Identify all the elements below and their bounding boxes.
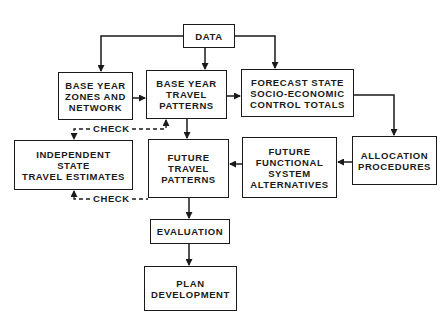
- node-label: SOCIO-ECONOMIC: [250, 88, 344, 99]
- node-label: NETWORK: [69, 102, 122, 113]
- node-future-travel: FUTURE TRAVEL PATTERNS: [148, 139, 229, 198]
- node-label: ALLOCATION: [361, 150, 429, 161]
- node-independent-state: INDEPENDENT STATE TRAVEL ESTIMATES: [14, 140, 133, 190]
- node-label: ALTERNATIVES: [250, 179, 329, 190]
- node-label: SYSTEM: [268, 168, 311, 179]
- node-label: FORECAST STATE: [251, 77, 344, 88]
- node-label: PATTERNS: [161, 174, 216, 185]
- node-label: PATTERNS: [159, 100, 214, 111]
- node-label: CONTROL TOTALS: [250, 99, 345, 110]
- node-label: INDEPENDENT: [36, 149, 111, 160]
- node-label: BASE YEAR: [65, 80, 126, 91]
- node-evaluation: EVALUATION: [150, 219, 230, 244]
- node-base-year-zones: BASE YEAR ZONES AND NETWORK: [58, 72, 133, 120]
- node-label: FUTURE: [167, 152, 209, 163]
- node-label: PLAN: [176, 278, 204, 289]
- node-label: FUTURE: [268, 146, 310, 157]
- node-label: PROCEDURES: [358, 161, 431, 172]
- node-label: EVALUATION: [157, 226, 223, 237]
- node-label: FUNCTIONAL: [256, 157, 324, 168]
- node-plan-development: PLAN DEVELOPMENT: [144, 266, 237, 311]
- node-label: STATE: [57, 160, 90, 171]
- node-label: BASE YEAR: [156, 78, 217, 89]
- node-label: TRAVEL ESTIMATES: [22, 171, 125, 182]
- node-label: DEVELOPMENT: [151, 289, 230, 300]
- node-base-year-travel: BASE YEAR TRAVEL PATTERNS: [146, 70, 227, 119]
- node-label: TRAVEL: [168, 163, 209, 174]
- node-allocation: ALLOCATION PROCEDURES: [352, 136, 437, 185]
- check-label-bottom: CHECK: [92, 194, 131, 204]
- node-label: ZONES AND: [65, 91, 126, 102]
- check-label-top: CHECK: [92, 124, 131, 134]
- node-label: TRAVEL: [166, 89, 207, 100]
- node-label: DATA: [195, 31, 222, 42]
- node-future-functional: FUTURE FUNCTIONAL SYSTEM ALTERNATIVES: [242, 137, 337, 198]
- node-forecast-state: FORECAST STATE SOCIO-ECONOMIC CONTROL TO…: [241, 69, 354, 117]
- node-data: DATA: [183, 24, 235, 48]
